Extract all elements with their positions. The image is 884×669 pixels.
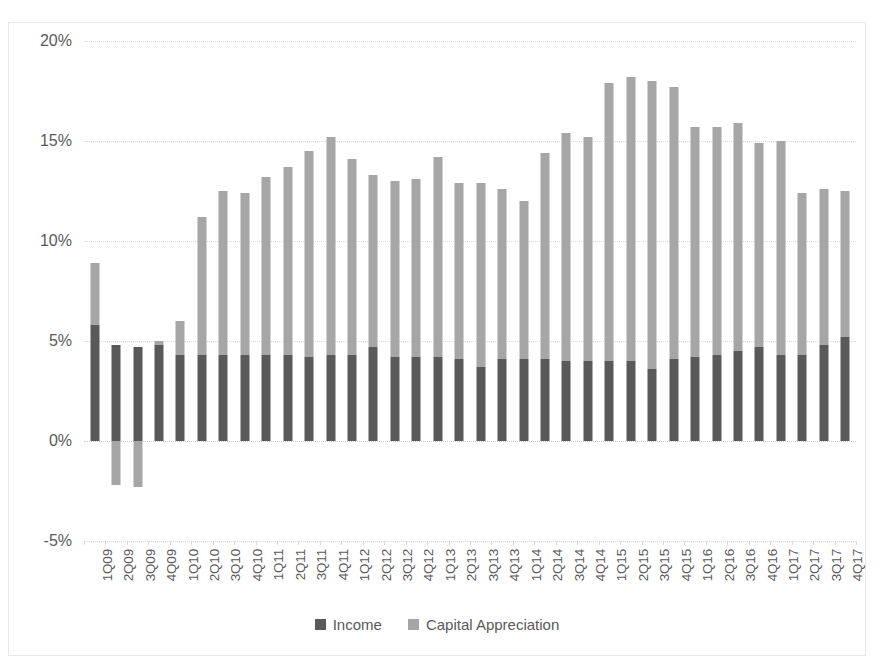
bar-segment-income[interactable] bbox=[562, 361, 571, 441]
bar-segment-capital-appreciation[interactable] bbox=[669, 87, 678, 359]
bar-segment-income[interactable] bbox=[90, 325, 99, 441]
bar-segment-income[interactable] bbox=[197, 355, 206, 441]
bar-segment-capital-appreciation[interactable] bbox=[305, 151, 314, 357]
bar-group[interactable] bbox=[663, 41, 684, 541]
bar-segment-income[interactable] bbox=[176, 355, 185, 441]
bar-segment-capital-appreciation[interactable] bbox=[498, 189, 507, 359]
bar-segment-capital-appreciation[interactable] bbox=[583, 137, 592, 361]
legend-item-capital-appreciation[interactable]: Capital Appreciation bbox=[408, 616, 559, 633]
bar-group[interactable] bbox=[642, 41, 663, 541]
bar-segment-capital-appreciation[interactable] bbox=[734, 123, 743, 351]
bar-segment-income[interactable] bbox=[262, 355, 271, 441]
bar-segment-capital-appreciation[interactable] bbox=[412, 179, 421, 357]
bar-segment-income[interactable] bbox=[133, 347, 142, 441]
bar-group[interactable] bbox=[556, 41, 577, 541]
bar-segment-capital-appreciation[interactable] bbox=[455, 183, 464, 359]
bar-group[interactable] bbox=[599, 41, 620, 541]
bar-group[interactable] bbox=[363, 41, 384, 541]
bar-segment-capital-appreciation[interactable] bbox=[648, 81, 657, 369]
bar-group[interactable] bbox=[770, 41, 791, 541]
bar-group[interactable] bbox=[577, 41, 598, 541]
bar-group[interactable] bbox=[277, 41, 298, 541]
bar-group[interactable] bbox=[105, 41, 126, 541]
bar-segment-capital-appreciation[interactable] bbox=[90, 263, 99, 325]
bar-segment-income[interactable] bbox=[841, 337, 850, 441]
bar-segment-capital-appreciation[interactable] bbox=[626, 77, 635, 361]
bar-segment-income[interactable] bbox=[819, 345, 828, 441]
bar-segment-income[interactable] bbox=[798, 355, 807, 441]
bar-group[interactable] bbox=[534, 41, 555, 541]
bar-segment-income[interactable] bbox=[112, 345, 121, 441]
bar-segment-capital-appreciation[interactable] bbox=[691, 127, 700, 357]
bar-segment-capital-appreciation[interactable] bbox=[755, 143, 764, 347]
bar-segment-capital-appreciation[interactable] bbox=[112, 441, 121, 485]
bar-segment-capital-appreciation[interactable] bbox=[155, 341, 164, 345]
bar-group[interactable] bbox=[813, 41, 834, 541]
bar-group[interactable] bbox=[684, 41, 705, 541]
bar-segment-capital-appreciation[interactable] bbox=[605, 83, 614, 361]
bar-segment-capital-appreciation[interactable] bbox=[562, 133, 571, 361]
bar-segment-income[interactable] bbox=[541, 359, 550, 441]
bar-group[interactable] bbox=[148, 41, 169, 541]
bar-segment-income[interactable] bbox=[605, 361, 614, 441]
bar-group[interactable] bbox=[491, 41, 512, 541]
bar-segment-capital-appreciation[interactable] bbox=[197, 217, 206, 355]
bar-group[interactable] bbox=[341, 41, 362, 541]
bar-segment-income[interactable] bbox=[240, 355, 249, 441]
bar-segment-capital-appreciation[interactable] bbox=[819, 189, 828, 345]
bar-group[interactable] bbox=[427, 41, 448, 541]
bar-segment-capital-appreciation[interactable] bbox=[541, 153, 550, 359]
bar-group[interactable] bbox=[792, 41, 813, 541]
bar-segment-income[interactable] bbox=[305, 357, 314, 441]
bar-group[interactable] bbox=[170, 41, 191, 541]
bar-segment-income[interactable] bbox=[455, 359, 464, 441]
bar-segment-capital-appreciation[interactable] bbox=[841, 191, 850, 337]
bar-segment-capital-appreciation[interactable] bbox=[798, 193, 807, 355]
bar-segment-income[interactable] bbox=[412, 357, 421, 441]
bar-segment-income[interactable] bbox=[390, 357, 399, 441]
bar-segment-income[interactable] bbox=[433, 357, 442, 441]
bar-group[interactable] bbox=[191, 41, 212, 541]
bar-segment-income[interactable] bbox=[348, 355, 357, 441]
bar-group[interactable] bbox=[256, 41, 277, 541]
bar-segment-capital-appreciation[interactable] bbox=[133, 441, 142, 487]
bar-segment-income[interactable] bbox=[283, 355, 292, 441]
bar-segment-capital-appreciation[interactable] bbox=[369, 175, 378, 347]
bar-segment-income[interactable] bbox=[498, 359, 507, 441]
bar-group[interactable] bbox=[320, 41, 341, 541]
bar-group[interactable] bbox=[406, 41, 427, 541]
bar-segment-capital-appreciation[interactable] bbox=[262, 177, 271, 355]
bar-segment-income[interactable] bbox=[583, 361, 592, 441]
bar-group[interactable] bbox=[749, 41, 770, 541]
bar-segment-income[interactable] bbox=[476, 367, 485, 441]
bar-segment-income[interactable] bbox=[648, 369, 657, 441]
bar-segment-income[interactable] bbox=[519, 359, 528, 441]
bar-segment-income[interactable] bbox=[669, 359, 678, 441]
bar-segment-income[interactable] bbox=[219, 355, 228, 441]
bar-segment-income[interactable] bbox=[734, 351, 743, 441]
bar-segment-income[interactable] bbox=[776, 355, 785, 441]
bar-group[interactable] bbox=[213, 41, 234, 541]
bar-segment-capital-appreciation[interactable] bbox=[176, 321, 185, 355]
bar-segment-capital-appreciation[interactable] bbox=[433, 157, 442, 357]
bar-segment-income[interactable] bbox=[369, 347, 378, 441]
bar-group[interactable] bbox=[620, 41, 641, 541]
bar-group[interactable] bbox=[234, 41, 255, 541]
legend-item-income[interactable]: Income bbox=[315, 616, 382, 633]
bar-group[interactable] bbox=[84, 41, 105, 541]
bar-group[interactable] bbox=[384, 41, 405, 541]
bar-segment-capital-appreciation[interactable] bbox=[326, 137, 335, 355]
bar-segment-income[interactable] bbox=[155, 345, 164, 441]
bar-group[interactable] bbox=[835, 41, 856, 541]
bar-group[interactable] bbox=[127, 41, 148, 541]
bar-segment-income[interactable] bbox=[712, 355, 721, 441]
bar-group[interactable] bbox=[706, 41, 727, 541]
bar-segment-capital-appreciation[interactable] bbox=[476, 183, 485, 367]
bar-segment-capital-appreciation[interactable] bbox=[390, 181, 399, 357]
bar-segment-income[interactable] bbox=[755, 347, 764, 441]
bar-group[interactable] bbox=[470, 41, 491, 541]
bar-segment-capital-appreciation[interactable] bbox=[240, 193, 249, 355]
bar-segment-capital-appreciation[interactable] bbox=[348, 159, 357, 355]
bar-segment-capital-appreciation[interactable] bbox=[283, 167, 292, 355]
bar-segment-capital-appreciation[interactable] bbox=[519, 201, 528, 359]
